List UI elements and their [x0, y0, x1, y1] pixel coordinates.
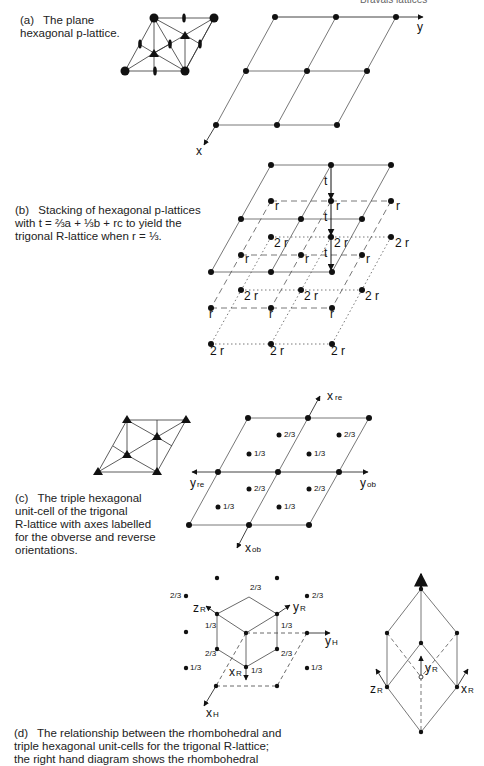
svg-text:2/3: 2/3 — [250, 583, 262, 592]
triad-icon — [93, 467, 103, 475]
svg-text:2/3: 2/3 — [344, 430, 356, 439]
svg-text:yob: yob — [360, 476, 376, 490]
triad-icon — [122, 450, 132, 458]
diad-icon — [153, 67, 157, 76]
svg-text:1/3: 1/3 — [251, 666, 263, 675]
diad-icon — [198, 40, 202, 49]
svg-text:2 r: 2 r — [331, 344, 345, 358]
svg-text:yR: yR — [425, 661, 438, 675]
hexad-icon — [121, 67, 130, 76]
svg-text:r: r — [209, 307, 213, 321]
svg-text:1/3: 1/3 — [254, 449, 266, 458]
triad-icon — [181, 415, 191, 423]
hexad-icon — [210, 14, 219, 23]
svg-text:2 r: 2 r — [395, 236, 409, 250]
svg-text:t: t — [324, 246, 328, 260]
svg-text:2 r: 2 r — [365, 289, 379, 303]
svg-text:1/3: 1/3 — [314, 449, 326, 458]
svg-text:xR: xR — [229, 665, 242, 679]
panel-c-fraction-labels: 2/3 2/3 1/3 1/3 2/3 2/3 1/3 1/3 — [223, 430, 356, 511]
svg-text:2 r: 2 r — [270, 344, 284, 358]
svg-text:1/3: 1/3 — [284, 502, 296, 511]
triad-icon — [122, 415, 132, 423]
axis-label-x: x — [196, 144, 202, 158]
svg-text:r: r — [396, 199, 400, 213]
svg-text:2/3: 2/3 — [284, 430, 296, 439]
svg-text:r: r — [275, 199, 279, 213]
panel-a-lattice — [204, 17, 423, 145]
svg-text:1/3: 1/3 — [190, 663, 202, 672]
svg-text:2/3: 2/3 — [254, 484, 266, 493]
diad-icon — [182, 14, 186, 23]
panel-d-left-points — [184, 576, 309, 688]
svg-text:1/3: 1/3 — [311, 663, 323, 672]
diad-icon — [138, 40, 142, 49]
triad-icon — [180, 31, 190, 39]
panel-d-hexagonal-rhombohedral — [204, 597, 330, 706]
panel-d-rhombohedron-points — [385, 587, 459, 734]
svg-text:2/3: 2/3 — [205, 649, 217, 658]
diad-icon — [168, 40, 172, 49]
svg-text:zR: zR — [193, 601, 206, 615]
svg-text:yR: yR — [293, 600, 306, 614]
panel-a-lattice-points — [213, 14, 399, 128]
svg-text:xH: xH — [206, 706, 219, 720]
svg-text:2/3: 2/3 — [312, 591, 324, 600]
svg-text:xob: xob — [245, 541, 261, 555]
svg-text:1/3: 1/3 — [223, 502, 235, 511]
svg-text:r: r — [269, 307, 273, 321]
svg-text:zR: zR — [370, 682, 383, 696]
svg-text:r: r — [245, 252, 249, 266]
hexad-icon — [150, 14, 159, 23]
panel-d-rhombohedron — [376, 574, 468, 732]
svg-text:1/3: 1/3 — [281, 621, 293, 630]
svg-text:t: t — [324, 210, 328, 224]
svg-text:r: r — [366, 252, 370, 266]
svg-text:2/3: 2/3 — [281, 649, 293, 658]
svg-text:xre: xre — [327, 389, 343, 403]
svg-text:r: r — [336, 199, 340, 213]
svg-text:2 r: 2 r — [304, 289, 318, 303]
triad-icon — [149, 49, 159, 57]
svg-text:t: t — [324, 174, 328, 188]
axis-label-y: y — [417, 20, 423, 34]
panel-a-symmetry-symbols — [121, 14, 219, 76]
svg-text:2/3: 2/3 — [170, 591, 182, 600]
svg-text:1/3: 1/3 — [205, 621, 217, 630]
svg-text:2 r: 2 r — [244, 289, 258, 303]
svg-text:yH: yH — [325, 634, 338, 648]
svg-text:2 r: 2 r — [334, 236, 348, 250]
panel-b-labels: t t t r r r r r r r r r 2 r 2 r 2 r 2 r … — [209, 174, 409, 358]
svg-text:r: r — [330, 307, 334, 321]
svg-text:r: r — [305, 252, 309, 266]
triad-icon — [152, 432, 162, 440]
panel-d-fraction-labels: 2/3 2/3 2/3 1/3 1/3 2/3 2/3 1/3 1/3 1/3 — [170, 583, 324, 675]
svg-text:2/3: 2/3 — [314, 484, 326, 493]
panel-d-axis-labels: zR yR yH xR xH — [193, 600, 338, 720]
triad-icon — [152, 467, 162, 475]
panel-c-triad-diagram — [98, 420, 186, 472]
svg-text:xR: xR — [461, 682, 474, 696]
svg-text:2 r: 2 r — [274, 236, 288, 250]
svg-text:2 r: 2 r — [210, 344, 224, 358]
hexad-icon — [181, 67, 190, 76]
svg-text:yre: yre — [190, 476, 205, 490]
